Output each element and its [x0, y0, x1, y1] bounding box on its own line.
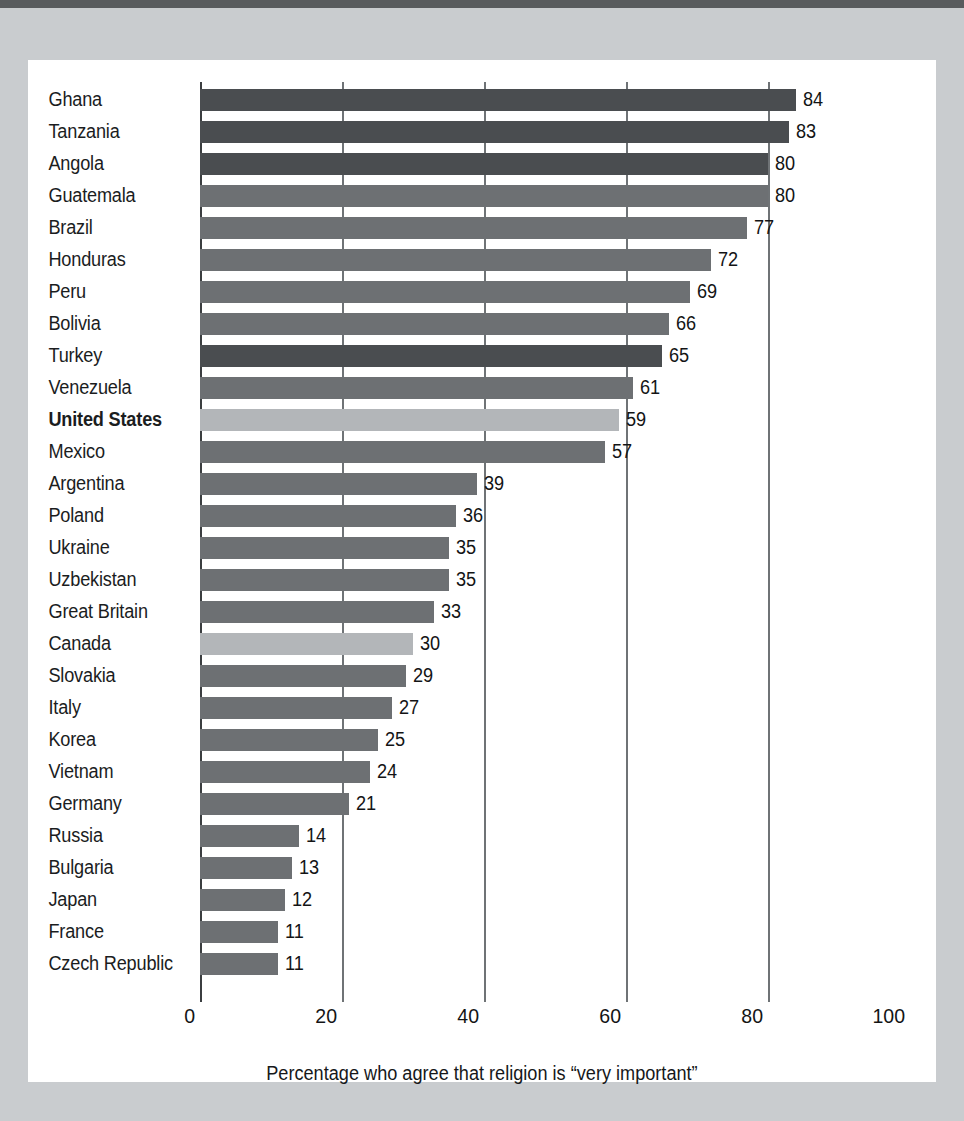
bar-category-label: Turkey — [28, 340, 168, 372]
page-top-band — [0, 0, 964, 8]
x-tick-label-80: 80 — [741, 1004, 763, 1028]
bar-value-label: 35 — [456, 564, 476, 596]
bar-row: Russia14 — [28, 820, 936, 852]
bar-category-label: Brazil — [28, 212, 168, 244]
bar-row: Canada30 — [28, 628, 936, 660]
bar — [200, 761, 370, 783]
bar-row: Poland36 — [28, 500, 936, 532]
bar — [200, 345, 662, 367]
bar-value-label: 77 — [754, 212, 774, 244]
bar-value-label: 59 — [626, 404, 646, 436]
chart-caption-text: Percentage who agree that religion is “v… — [266, 1062, 697, 1085]
bar-category-label: Italy — [28, 692, 168, 724]
bar-row: France11 — [28, 916, 936, 948]
bar-value-label: 61 — [640, 372, 660, 404]
bar — [200, 217, 747, 239]
bar-category-label: Poland — [28, 500, 168, 532]
bar — [200, 601, 434, 623]
bar-category-label: United States — [28, 404, 168, 436]
bar-row: Venezuela61 — [28, 372, 936, 404]
bar-category-label: Russia — [28, 820, 168, 852]
bar — [200, 953, 278, 975]
bar-value-label: 13 — [299, 852, 319, 884]
bar-category-label: Mexico — [28, 436, 168, 468]
bar-category-label: Great Britain — [28, 596, 168, 628]
bar-value-label: 27 — [399, 692, 419, 724]
bar — [200, 921, 278, 943]
x-axis-tick-labels: 020406080100 — [28, 1004, 936, 1038]
bar-row: Brazil77 — [28, 212, 936, 244]
bar-row: Angola80 — [28, 148, 936, 180]
bar-value-label: 11 — [285, 948, 304, 980]
bar-category-label: Angola — [28, 148, 168, 180]
x-tick-label-60: 60 — [599, 1004, 621, 1028]
bar-category-label: Venezuela — [28, 372, 168, 404]
bar-row: Argentina39 — [28, 468, 936, 500]
bar-row: Italy27 — [28, 692, 936, 724]
bar-row: United States59 — [28, 404, 936, 436]
bar-category-label: Germany — [28, 788, 168, 820]
bar-value-label: 25 — [385, 724, 405, 756]
chart-caption: Percentage who agree that religion is “v… — [28, 1062, 936, 1085]
bar — [200, 537, 449, 559]
bar-category-label: Ghana — [28, 84, 168, 116]
bar-row: Mexico57 — [28, 436, 936, 468]
bar-category-label: Canada — [28, 628, 168, 660]
bar-value-label: 83 — [796, 116, 816, 148]
bar-value-label: 72 — [718, 244, 738, 276]
bar-value-label: 14 — [306, 820, 326, 852]
bar-row: Vietnam24 — [28, 756, 936, 788]
bar-value-label: 69 — [697, 276, 717, 308]
bar — [200, 441, 605, 463]
bar — [200, 185, 768, 207]
bar-value-label: 80 — [775, 180, 795, 212]
bar-row: Turkey65 — [28, 340, 936, 372]
bar-category-label: Ukraine — [28, 532, 168, 564]
bar-row: Bulgaria13 — [28, 852, 936, 884]
x-tick-label-100: 100 — [872, 1004, 905, 1028]
bar-category-label: Tanzania — [28, 116, 168, 148]
figure-page: Ghana84Tanzania83Angola80Guatemala80Braz… — [0, 0, 964, 1121]
bar-category-label: Uzbekistan — [28, 564, 168, 596]
bar — [200, 89, 796, 111]
bar-value-label: 12 — [292, 884, 312, 916]
bar-category-label: Vietnam — [28, 756, 168, 788]
bar-row: Tanzania83 — [28, 116, 936, 148]
bar — [200, 889, 285, 911]
bar-row: Slovakia29 — [28, 660, 936, 692]
bar-row: Uzbekistan35 — [28, 564, 936, 596]
bar-row: Korea25 — [28, 724, 936, 756]
bar-rows: Ghana84Tanzania83Angola80Guatemala80Braz… — [28, 84, 936, 980]
bar-row: Great Britain33 — [28, 596, 936, 628]
bar-value-label: 11 — [285, 916, 304, 948]
x-tick-label-0: 0 — [184, 1004, 195, 1028]
bar-category-label: Peru — [28, 276, 168, 308]
bar — [200, 505, 456, 527]
bar — [200, 633, 413, 655]
bar-category-label: Slovakia — [28, 660, 168, 692]
bar — [200, 665, 406, 687]
bar-value-label: 35 — [456, 532, 476, 564]
bar-row: Guatemala80 — [28, 180, 936, 212]
bar-category-label: Bolivia — [28, 308, 168, 340]
bar-row: Peru69 — [28, 276, 936, 308]
bar — [200, 249, 711, 271]
bar-category-label: Czech Republic — [28, 948, 168, 980]
figure-card: Ghana84Tanzania83Angola80Guatemala80Braz… — [28, 60, 936, 1082]
bar-category-label: Guatemala — [28, 180, 168, 212]
bar — [200, 857, 292, 879]
bar — [200, 313, 669, 335]
bar-category-label: Honduras — [28, 244, 168, 276]
bar — [200, 377, 633, 399]
bar-value-label: 65 — [669, 340, 689, 372]
bar — [200, 153, 768, 175]
bar-chart-plot-area: Ghana84Tanzania83Angola80Guatemala80Braz… — [28, 60, 936, 1082]
bar-row: Ghana84 — [28, 84, 936, 116]
bar-row: Bolivia66 — [28, 308, 936, 340]
bar — [200, 729, 378, 751]
bar-value-label: 33 — [441, 596, 461, 628]
bar-category-label: Korea — [28, 724, 168, 756]
bar-row: Honduras72 — [28, 244, 936, 276]
bar-value-label: 80 — [775, 148, 795, 180]
bar — [200, 793, 349, 815]
